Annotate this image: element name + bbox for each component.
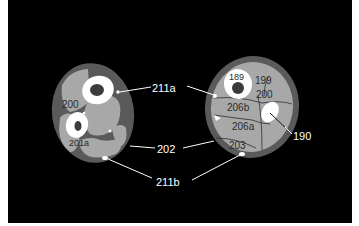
left-cross-section: 200 201a	[45, 58, 140, 168]
right-cross-section: 189 199 200 206b 206a 203	[197, 49, 307, 166]
left-vessel-small	[83, 112, 86, 115]
leader-211b-left	[108, 159, 152, 178]
leader-202-right	[183, 141, 214, 148]
right-label-203: 203	[229, 140, 246, 151]
leader-211b-right	[192, 155, 240, 180]
right-label-206b: 206b	[227, 102, 250, 113]
left-marrow-tibia	[90, 84, 104, 96]
callout-211b: 211b	[156, 176, 180, 188]
right-label-199: 199	[255, 75, 272, 86]
leader-202-left	[130, 146, 155, 148]
left-vessel-small-2	[109, 130, 112, 133]
left-marrow-fibula	[75, 121, 82, 131]
right-label-206a: 206a	[232, 121, 255, 132]
left-label-201a: 201a	[69, 138, 89, 148]
cross-section-diagram: 200 201a 189 199 200 206b 206a 203	[0, 0, 359, 226]
callout-211a: 211a	[152, 82, 177, 94]
right-label-200: 200	[256, 89, 273, 100]
right-label-189: 189	[229, 72, 244, 82]
callout-190: 190	[293, 130, 311, 142]
left-vessel-211a	[116, 90, 120, 94]
right-marrow-189	[232, 82, 244, 94]
callout-202: 202	[157, 143, 175, 155]
left-label-200: 200	[62, 99, 79, 110]
left-vessel-211b	[102, 156, 108, 160]
